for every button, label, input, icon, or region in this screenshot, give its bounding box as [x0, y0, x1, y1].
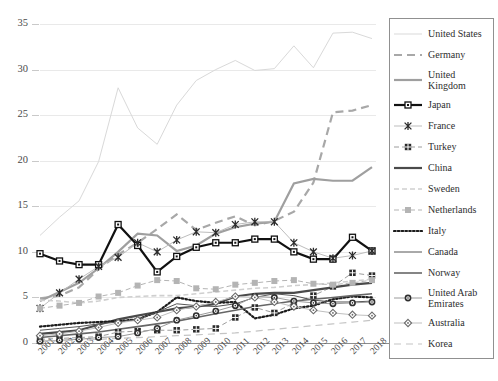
data-point-marker — [154, 248, 161, 256]
data-point-marker — [57, 258, 63, 264]
data-point-marker — [95, 334, 102, 341]
data-point-marker — [213, 286, 219, 292]
series-line-germany — [40, 105, 372, 298]
legend-item-label: Sweden — [428, 183, 460, 194]
data-point-marker — [174, 253, 180, 259]
legend-item-label: United States — [428, 28, 482, 39]
data-point-marker — [154, 325, 161, 332]
series-line-china — [40, 283, 372, 334]
data-point-marker — [173, 236, 180, 244]
legend-item-italy[interactable]: Italy — [393, 220, 490, 241]
legend-item-label: Korea — [428, 338, 452, 349]
legend-item-turkey[interactable]: Turkey — [393, 136, 490, 157]
data-point-marker — [135, 283, 141, 289]
legend-key-icon — [393, 27, 423, 41]
legend-item-china[interactable]: China — [393, 157, 490, 178]
legend-item-united-kingdom[interactable]: United Kingdom — [393, 65, 490, 94]
legend-item-label: Netherlands — [428, 204, 476, 215]
data-point-marker — [310, 299, 317, 306]
legend-item-korea[interactable]: Korea — [393, 333, 490, 354]
data-point-marker — [76, 262, 82, 268]
data-point-marker — [349, 311, 356, 318]
legend-item-label: United Arab Emirates — [428, 287, 490, 309]
legend-item-label: China — [428, 162, 452, 173]
data-point-marker — [115, 333, 122, 340]
data-point-marker — [193, 285, 199, 291]
legend-item-sweden[interactable]: Sweden — [393, 178, 490, 199]
data-point-marker — [193, 303, 200, 310]
data-point-marker — [349, 234, 355, 240]
data-point-marker — [291, 249, 297, 255]
data-point-marker — [37, 251, 43, 257]
chart-legend: United StatesGermanyUnited KingdomJapanF… — [389, 18, 494, 359]
legend-item-germany[interactable]: Germany — [393, 44, 490, 65]
data-point-marker — [232, 240, 238, 246]
legend-item-france[interactable]: France — [393, 115, 490, 136]
chart-figure: 05101520253035 2001200220032004200520062… — [0, 0, 498, 381]
legend-key-icon — [393, 48, 423, 62]
series-line-united-states — [40, 32, 372, 235]
data-point-marker — [57, 303, 63, 309]
data-point-marker — [405, 207, 411, 213]
data-point-marker — [115, 290, 121, 296]
data-point-marker — [404, 319, 411, 326]
legend-item-label: Italy — [428, 225, 446, 236]
legend-item-label: Turkey — [428, 141, 457, 152]
legend-item-australia[interactable]: Australia — [393, 312, 490, 333]
data-point-marker — [174, 327, 180, 333]
data-point-marker — [193, 244, 199, 250]
data-point-marker — [405, 102, 411, 108]
legend-item-label: Australia — [428, 317, 465, 328]
data-point-marker — [252, 236, 258, 242]
data-point-marker — [252, 280, 258, 286]
data-point-marker — [405, 294, 412, 301]
legend-key-icon — [393, 316, 423, 330]
data-point-marker — [213, 240, 219, 246]
series-line-norway — [40, 294, 372, 338]
legend-key-icon — [393, 98, 423, 112]
series-line-united-arab-emirates — [40, 297, 372, 342]
legend-item-united-states[interactable]: United States — [393, 23, 490, 44]
series-line-united-kingdom — [40, 167, 372, 301]
data-point-marker — [232, 293, 239, 300]
data-point-marker — [310, 307, 317, 314]
legend-item-norway[interactable]: Norway — [393, 262, 490, 283]
data-point-marker — [349, 270, 355, 276]
legend-key-icon — [393, 245, 423, 259]
legend-item-label: France — [428, 120, 455, 131]
legend-item-united-arab-emirates[interactable]: United Arab Emirates — [393, 283, 490, 312]
legend-key-icon — [393, 73, 423, 87]
legend-item-label: Norway — [428, 267, 460, 278]
data-point-marker — [76, 275, 83, 283]
legend-key-icon — [393, 337, 423, 351]
data-point-marker — [115, 253, 122, 261]
data-point-marker — [271, 278, 277, 284]
legend-item-canada[interactable]: Canada — [393, 241, 490, 262]
legend-key-icon — [393, 140, 423, 154]
legend-item-netherlands[interactable]: Netherlands — [393, 199, 490, 220]
legend-key-icon — [393, 182, 423, 196]
legend-item-japan[interactable]: Japan — [393, 94, 490, 115]
legend-key-icon — [393, 266, 423, 280]
data-point-marker — [213, 325, 219, 331]
data-point-marker — [173, 317, 180, 324]
data-point-marker — [134, 330, 141, 337]
data-point-marker — [232, 282, 238, 288]
legend-key-icon — [393, 161, 423, 175]
data-point-marker — [193, 326, 199, 332]
data-point-marker — [154, 269, 160, 275]
data-point-marker — [232, 302, 239, 309]
data-point-marker — [271, 310, 277, 316]
data-point-marker — [76, 300, 82, 306]
data-point-marker — [310, 281, 316, 287]
data-point-marker — [212, 308, 219, 315]
data-point-marker — [369, 299, 376, 306]
legend-key-icon — [393, 224, 423, 238]
legend-item-label: Germany — [428, 49, 465, 60]
data-point-marker — [271, 236, 277, 242]
data-point-marker — [252, 304, 258, 310]
data-point-marker — [76, 336, 83, 343]
data-point-marker — [232, 314, 238, 320]
data-point-marker — [193, 312, 200, 319]
data-point-marker — [174, 278, 180, 284]
